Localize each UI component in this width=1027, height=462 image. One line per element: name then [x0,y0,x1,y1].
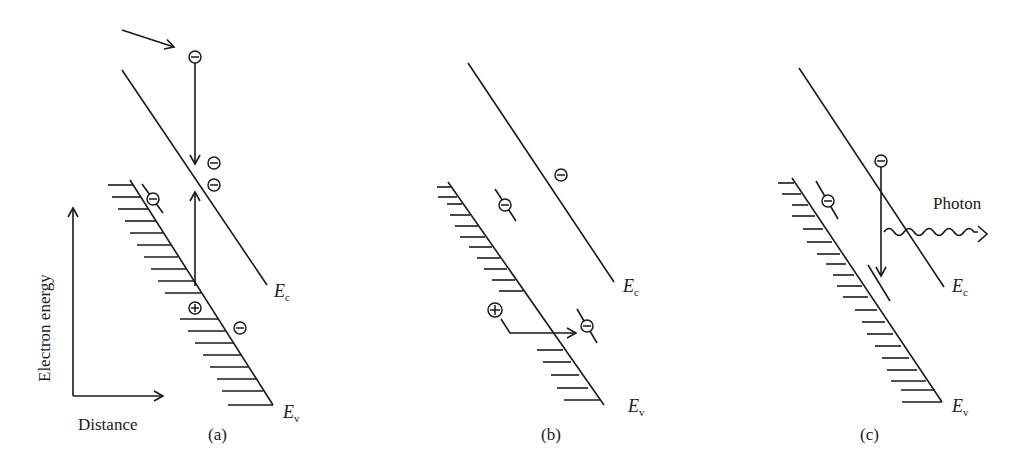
photon-arrowhead [978,226,987,242]
electron-conduction-2 [208,179,220,191]
ev-label: Ev [951,396,969,418]
valence-band-edge [448,182,604,405]
electron-incoming [189,51,201,63]
caption-c: (c) [860,425,879,444]
trapped-electron [822,195,834,207]
conduction-band-edge [468,63,614,282]
electron-conduction [555,169,567,181]
panel-c: Ec [778,68,987,444]
valence-band-edge [792,178,942,402]
hole-capture-arrow [501,319,576,333]
x-axis-label: Distance [78,415,137,434]
photon-wave-icon [884,229,978,236]
y-axis-label: Electron energy [35,274,54,382]
electron-recombining [875,155,887,167]
electron-conduction-1 [208,157,220,169]
ec-label: Ec [951,276,968,298]
valence-band-hatching [108,185,273,405]
trapped-electron [147,193,159,205]
band-diagram-figure: Electron energy Distance Ec [0,0,1027,462]
valence-band-hatching [778,183,942,402]
ev-label: Ev [627,396,645,418]
caption-a: (a) [208,425,227,444]
caption-b: (b) [541,425,561,444]
valence-band-hatching [437,187,600,400]
ec-label: Ec [622,276,639,298]
ev-label: Ev [282,402,300,424]
electron-valence [234,322,246,334]
valence-band-edge [130,180,273,405]
axes: Electron energy Distance [35,208,163,434]
hole [488,303,502,317]
trapped-electron [499,199,511,211]
panel-a: Electron energy Distance Ec [35,30,300,444]
panel-b: Ec Ev [437,63,645,444]
hole [189,302,201,314]
photon-label: Photon [933,194,982,213]
incoming-electron-arrow [122,30,174,47]
ec-label: Ec [273,281,290,303]
trapped-electron-lower [581,320,593,332]
